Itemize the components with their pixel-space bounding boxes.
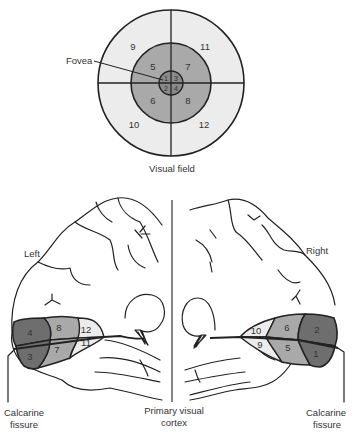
region-label: 5 <box>285 342 290 353</box>
right-brain-outline <box>190 199 335 400</box>
region-label: 3 <box>27 351 32 362</box>
region-label: 1 <box>164 75 168 82</box>
region-label: 8 <box>56 322 61 333</box>
right-hemisphere: 10 9 6 5 2 1 Right Calcarine fissure <box>182 199 346 430</box>
region-label: 1 <box>313 348 318 359</box>
region-label: 4 <box>27 327 32 338</box>
left-hemisphere-label: Left <box>24 248 40 259</box>
left-sulcus <box>38 198 158 285</box>
left-calcarine-label: Calcarine <box>4 407 44 418</box>
region-label: 4 <box>174 85 178 92</box>
region-label: 2 <box>164 85 168 92</box>
region-label: 11 <box>200 41 210 52</box>
left-calcarine-pointer <box>8 350 14 402</box>
region-label: 7 <box>185 61 190 72</box>
right-calcarine-label: fissure <box>313 419 341 430</box>
region-label: 12 <box>81 324 92 335</box>
right-calcarine-pointer <box>336 347 344 402</box>
left-sulcus <box>95 340 160 382</box>
right-temporal-bulge <box>182 298 215 348</box>
right-sulcus <box>196 200 305 304</box>
region-label: 10 <box>129 119 140 130</box>
right-hemisphere-label: Right <box>306 245 329 256</box>
diagram-canvas: Fovea 9 11 10 12 5 7 6 8 1 3 2 4 Visual … <box>0 0 355 437</box>
region-label: 8 <box>185 95 190 106</box>
left-sulcus <box>45 226 150 305</box>
left-hemisphere: 4 3 8 7 12 11 Left Calcarine fissure <box>4 198 164 430</box>
region-label: 11 <box>81 337 91 348</box>
region-label: 3 <box>174 75 178 82</box>
region-label: 6 <box>150 95 155 106</box>
primary-visual-cortex-label: cortex <box>161 417 187 428</box>
right-calcarine-label: Calcarine <box>306 407 346 418</box>
region-label: 5 <box>150 61 155 72</box>
region-label: 9 <box>130 41 135 52</box>
region-label: 6 <box>284 322 289 333</box>
region-label: 12 <box>199 119 210 130</box>
visual-field-caption: Visual field <box>149 163 195 174</box>
fovea-label: Fovea <box>66 55 93 66</box>
left-calcarine-label: fissure <box>10 419 38 430</box>
primary-visual-cortex-label: Primary visual <box>144 405 204 416</box>
region-label: 10 <box>251 325 262 336</box>
region-label: 9 <box>257 339 262 350</box>
visual-field-diagram: Fovea 9 11 10 12 5 7 6 8 1 3 2 4 Visual … <box>66 10 244 174</box>
region-label: 2 <box>314 324 319 335</box>
region-label: 7 <box>54 344 59 355</box>
